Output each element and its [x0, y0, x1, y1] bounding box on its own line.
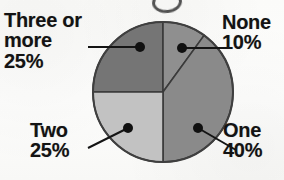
marker-dot-one [193, 123, 203, 133]
slice-value-three-or-more: 25% [4, 51, 82, 71]
slice-label-none: None 10% [222, 12, 271, 53]
slice-label-two: Two 25% [30, 120, 69, 161]
slice-value-two: 25% [30, 140, 69, 160]
slice-label-one-line1: One [223, 120, 262, 140]
slice-label-three-or-more: Three or more 25% [4, 10, 82, 71]
marker-dot-two [123, 123, 133, 133]
slice-value-one: 40% [223, 140, 262, 160]
marker-dot-three-or-more [135, 42, 145, 52]
slice-label-none-line1: None [222, 12, 271, 32]
slice-label-two-line1: Two [30, 120, 69, 140]
slice-value-none: 10% [222, 32, 271, 52]
pie-chart-figure: Three or more 25% None 10% Two 25% One 4… [0, 0, 284, 180]
marker-dot-none [177, 43, 187, 53]
slice-label-one: One 40% [223, 120, 262, 161]
slice-label-three-or-more-line2: more [4, 30, 82, 50]
slice-label-three-or-more-line1: Three or [4, 10, 82, 30]
